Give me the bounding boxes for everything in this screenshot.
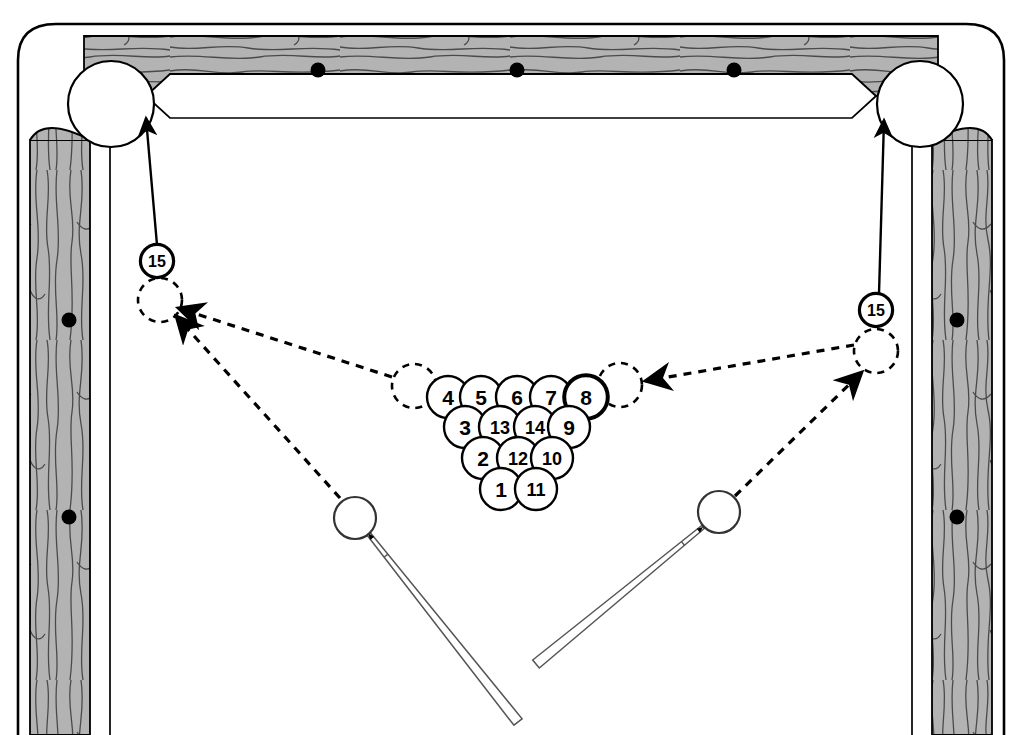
rack-ball-5-label: 5 — [475, 386, 487, 409]
rack-ball-11[interactable]: 11 — [515, 468, 557, 510]
rack-ball-10-label: 10 — [542, 449, 562, 469]
rack-ball-9-label: 9 — [563, 416, 575, 439]
left-rail — [30, 128, 90, 735]
rack-ball-3-label: 3 — [459, 416, 471, 439]
cue-ball-left[interactable] — [334, 497, 376, 539]
rack-ball-12-label: 12 — [508, 449, 528, 469]
fifteen-ball-right[interactable]: 15 — [858, 292, 894, 328]
rack-ball-11-label: 11 — [526, 480, 545, 500]
ghost-fifteen-ball-right — [854, 329, 898, 373]
diamond-right-2 — [950, 510, 965, 525]
rack-ball-2-label: 2 — [477, 447, 489, 470]
top-left-corner-pocket[interactable] — [68, 61, 154, 147]
billiards-diagram: 4567831314921210111 1515 — [0, 0, 1021, 735]
rack-ball-7-label: 7 — [545, 386, 557, 409]
top-right-corner-pocket[interactable] — [877, 61, 963, 147]
diamond-right-1 — [950, 313, 965, 328]
diamond-top-2 — [510, 63, 525, 78]
fifteen-ball-right-label: 15 — [867, 302, 885, 319]
cue-ball-right[interactable] — [698, 491, 740, 533]
diamond-top-3 — [727, 63, 742, 78]
diamond-left-2 — [62, 510, 77, 525]
fifteen-ball-left-label: 15 — [148, 253, 166, 270]
diamond-left-1 — [62, 313, 77, 328]
ghost-fifteen-ball-left — [138, 278, 182, 322]
rack-ball-8-label: 8 — [580, 386, 592, 409]
diamond-top-1 — [311, 63, 326, 78]
rack-ball-14-label: 14 — [525, 418, 545, 438]
rack-ball-6-label: 6 — [511, 386, 523, 409]
rack-ball-4-label: 4 — [442, 386, 454, 409]
rack-ball-1-label: 1 — [495, 478, 507, 501]
pool-diagram-stage: 4567831314921210111 1515 — [0, 0, 1021, 735]
rack-ball-13-label: 13 — [490, 418, 510, 438]
right-rail — [932, 128, 992, 735]
fifteen-ball-left[interactable]: 15 — [139, 243, 175, 279]
